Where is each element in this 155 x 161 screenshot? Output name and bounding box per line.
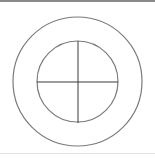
- diagram-canvas: [0, 0, 155, 161]
- bottom-border: [0, 153, 155, 154]
